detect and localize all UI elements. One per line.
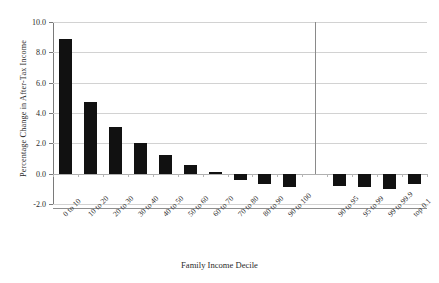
x-axis-tick [153, 174, 154, 177]
bar [159, 155, 172, 173]
bar [258, 174, 271, 185]
x-axis-tick [53, 174, 54, 177]
x-axis-tick [277, 174, 278, 177]
gridline [53, 52, 427, 53]
x-axis-tick [402, 174, 403, 177]
y-axis-tick [49, 52, 53, 53]
y-axis-tick [49, 204, 53, 205]
chart-figure: Percentage Change in After-Tax Income 10… [0, 0, 439, 283]
group-separator-line [315, 22, 316, 174]
x-axis-tick [252, 174, 253, 177]
x-axis-tick [352, 174, 353, 177]
bar [84, 102, 97, 173]
bar [234, 174, 247, 180]
x-axis-tick [203, 174, 204, 177]
bar [383, 174, 396, 189]
y-axis-tick [49, 113, 53, 114]
x-axis-tick [178, 174, 179, 177]
y-axis-tick-label: 0.0 [36, 169, 46, 178]
x-axis-title: Family Income Decile [0, 260, 439, 270]
y-axis-tick-label: 6.0 [36, 78, 46, 87]
x-axis-tick [128, 174, 129, 177]
bar [134, 143, 147, 173]
x-axis-tick [302, 174, 303, 177]
x-axis-tick [427, 174, 428, 177]
x-axis-tick [78, 174, 79, 177]
bar [184, 165, 197, 174]
x-axis-tick [377, 174, 378, 177]
bar [408, 174, 421, 185]
y-axis-title: Percentage Change in After-Tax Income [19, 14, 28, 204]
gridline [53, 83, 427, 84]
x-axis-tick [228, 174, 229, 177]
bar [283, 174, 296, 188]
y-axis-tick-label: 2.0 [36, 139, 46, 148]
y-axis-tick [49, 22, 53, 23]
bar [358, 174, 371, 188]
y-axis-tick [49, 143, 53, 144]
gridline [53, 113, 427, 114]
x-axis-tick [103, 174, 104, 177]
y-axis-tick-label: 10.0 [32, 18, 46, 27]
bar [59, 39, 72, 174]
bar [109, 127, 122, 174]
gridline [53, 22, 427, 23]
bar [209, 172, 222, 174]
y-axis-tick-label: 4.0 [36, 109, 46, 118]
bar [333, 174, 346, 186]
y-axis-tick [49, 83, 53, 84]
x-axis-tick [327, 174, 328, 177]
y-axis-tick-label: 8.0 [36, 48, 46, 57]
y-axis-tick-label: -2.0 [33, 200, 46, 209]
plot-area: 10.08.06.04.02.00.0-2.0 [53, 22, 427, 204]
